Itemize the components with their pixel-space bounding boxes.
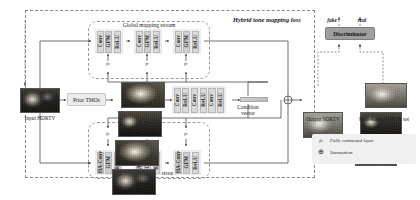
- block-label: HA-Conv: [176, 151, 181, 173]
- global-fc-1: fc: [100, 61, 116, 66]
- block-relu: ReLU: [192, 31, 199, 53]
- legend-label-fc: Fully connected layer: [330, 138, 374, 143]
- real-world-sdrtv-label: Real-world SDRTV set: [350, 116, 418, 122]
- block-conv: Conv: [97, 31, 104, 53]
- block-gfm: GFM: [183, 152, 190, 174]
- legend-item-fc: fc Fully connected layer: [317, 138, 411, 143]
- real-stack-layer-3: [365, 83, 407, 108]
- block-label: ReLU: [154, 35, 159, 49]
- legend-panel: fc Fully connected layer ⊕ Summation: [312, 134, 416, 164]
- block-gfm: GFM: [105, 31, 112, 53]
- block-label: Conv: [209, 94, 214, 106]
- input-hdrtv-image: [20, 88, 60, 113]
- global-fc-3: fc: [178, 61, 194, 66]
- block-label: ReLU: [115, 35, 120, 49]
- global-fc-2: fc: [139, 61, 155, 66]
- condition-vector-label-2: vector: [228, 110, 268, 116]
- global-group-2: Conv GFM ReLU: [134, 29, 162, 54]
- prior-tmos-label: Prior TMOs: [73, 97, 100, 103]
- block-label: GFM: [106, 35, 111, 47]
- block-relu: ReLU: [192, 152, 199, 174]
- block-label: GFM: [184, 156, 189, 168]
- block-relu: ReLU: [153, 31, 160, 53]
- stack-layer-1: [112, 169, 156, 195]
- block-label: ReLU: [201, 93, 206, 107]
- block-label: ReLU: [218, 93, 223, 107]
- block-label: GFM: [145, 35, 150, 47]
- block-label: ReLU: [193, 35, 198, 49]
- real-world-sdrtv-stack: [355, 83, 413, 117]
- block-label: Conv: [175, 94, 180, 106]
- block-label: Conv: [137, 35, 142, 47]
- pseudo-sdr-stack: [112, 82, 166, 118]
- global-stream-title: Global mapping stream: [88, 22, 210, 28]
- block-conv: Conv: [191, 88, 198, 113]
- real-label: real: [352, 17, 372, 23]
- block-label: GFM: [184, 35, 189, 47]
- block-conv: Conv: [175, 31, 182, 53]
- output-sdrtv-label: Output SDRTV: [298, 116, 348, 122]
- block-ha-conv: HA-Conv: [175, 152, 182, 174]
- block-label: HA-Conv: [98, 151, 103, 173]
- local-group-3: HA-Conv GFM ReLU: [173, 150, 201, 175]
- stack-layer-2: [115, 140, 159, 166]
- stack-layer-3: [118, 111, 162, 137]
- block-gfm: GFM: [183, 31, 190, 53]
- prior-tmos-box: Prior TMOs: [67, 93, 106, 106]
- fake-label: fake: [322, 17, 342, 23]
- block-label: Conv: [98, 35, 103, 47]
- input-hdrtv-label: Input HDRTV: [15, 115, 65, 121]
- discriminator-box: Discriminator: [325, 27, 375, 40]
- block-relu: ReLU: [182, 88, 189, 113]
- block-conv: Conv: [174, 88, 181, 113]
- block-relu: ReLU: [200, 88, 207, 113]
- global-group-3: Conv GFM ReLU: [173, 29, 201, 54]
- fc-icon: fc: [317, 138, 325, 143]
- block-conv: Conv: [208, 88, 215, 113]
- block-conv: Conv: [136, 31, 143, 53]
- condition-vector-bar: [240, 97, 268, 102]
- block-label: Conv: [192, 94, 197, 106]
- block-relu: ReLU: [217, 88, 224, 113]
- condition-encoder: Conv ReLU Conv ReLU Conv ReLU: [172, 86, 226, 114]
- block-label: ReLU: [183, 93, 188, 107]
- block-gfm: GFM: [144, 31, 151, 53]
- local-fc-3: fc: [178, 131, 194, 136]
- discriminator-label: Discriminator: [333, 31, 367, 37]
- summation-icon: ⊕: [317, 148, 325, 156]
- hybrid-loss-label: Hybrid tone mapping loss: [233, 16, 301, 23]
- block-ha-conv: HA-Conv: [97, 152, 104, 174]
- figure-canvas: Hybrid tone mapping loss Global mapping …: [0, 0, 420, 200]
- global-group-1: Conv GFM ReLU: [95, 29, 123, 54]
- block-label: GFM: [106, 156, 111, 168]
- legend-label-summation: Summation: [330, 150, 353, 155]
- block-label: ReLU: [193, 156, 198, 170]
- block-relu: ReLU: [114, 31, 121, 53]
- block-label: Conv: [176, 35, 181, 47]
- stack-layer-4: [121, 82, 165, 108]
- legend-item-summation: ⊕ Summation: [317, 148, 411, 156]
- local-fc-1: fc: [100, 131, 116, 136]
